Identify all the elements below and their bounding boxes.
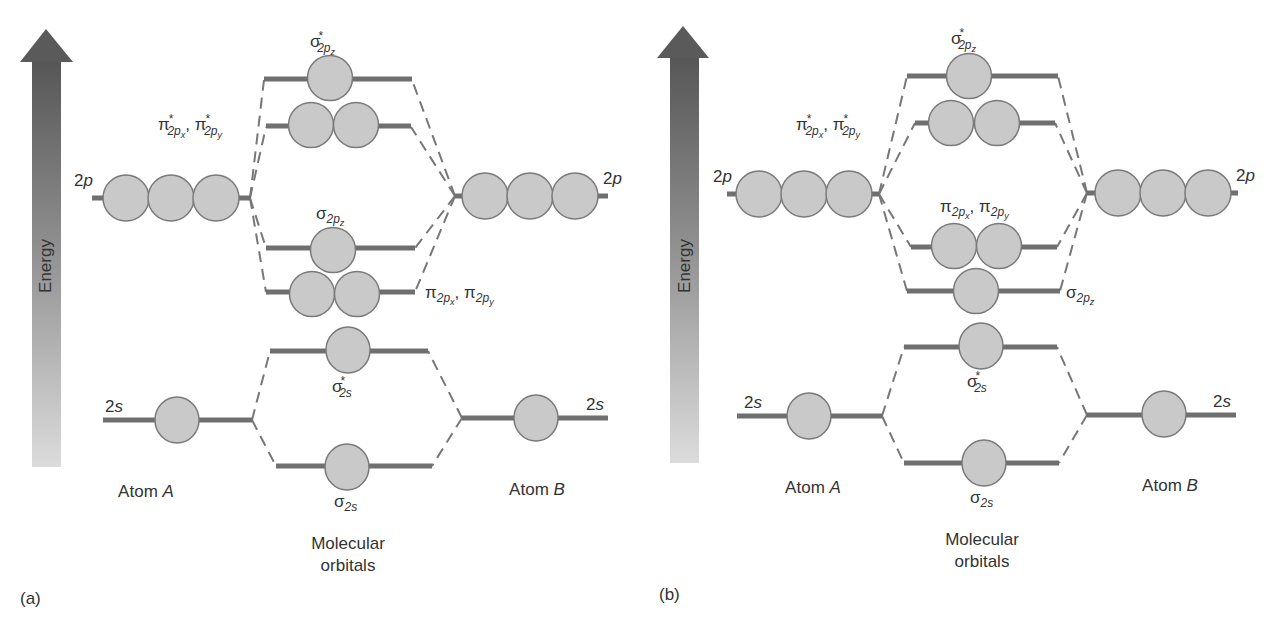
orbital-atom-a-2s	[787, 393, 831, 439]
label-sigma-star-2pz: σ*2pz	[310, 29, 336, 57]
label-pi-2p: π2px, π2py	[425, 283, 494, 307]
label-atom-b: Atom B	[509, 480, 565, 499]
orbital-pi-2py	[335, 272, 380, 317]
orbital-atom-b-2p	[462, 173, 508, 219]
label-atom-b: Atom B	[1142, 476, 1198, 495]
orbital-sigma-star-2pz	[308, 56, 353, 101]
panel-label-b: (b)	[659, 585, 680, 604]
orbital-pi-2px	[290, 272, 335, 317]
orbital-sigma-star-2pz	[947, 54, 992, 99]
panel-b: Energy	[657, 26, 1255, 604]
orbital-atom-a-2p	[781, 171, 827, 217]
label-sigma-2pz: σ2pz	[1066, 283, 1095, 307]
label-atom-b-2s: 2s	[1213, 392, 1231, 411]
orbital-atom-b-2p	[552, 173, 598, 219]
label-sigma-2pz: σ2pz	[316, 204, 345, 228]
panel-a: Energy	[20, 29, 622, 608]
orbital-atom-b-2p	[507, 173, 553, 219]
label-molecular-orbitals: Molecularorbitals	[311, 534, 385, 575]
energy-axis-label: Energy	[36, 239, 55, 293]
orbital-pi-star-2px	[289, 103, 334, 148]
label-sigma-star-2pz: σ*2pz	[951, 26, 977, 54]
energy-axis-label: Energy	[675, 239, 694, 293]
orbital-sigma-star-2s	[959, 323, 1003, 369]
orbital-atom-b-2p	[1140, 170, 1186, 216]
orbital-atom-b-2p	[1095, 170, 1141, 216]
label-sigma-star-2s: σ*2s	[332, 374, 352, 400]
orbital-sigma-2s	[325, 444, 369, 490]
orbital-pi-2py	[977, 224, 1022, 269]
orbital-atom-b-2p	[1185, 170, 1231, 216]
label-sigma-2s: σ2s	[970, 488, 993, 510]
label-atom-b-2s: 2s	[586, 395, 604, 414]
orbital-atom-a-2p	[826, 171, 872, 217]
orbital-pi-star-2py	[334, 103, 379, 148]
orbital-atom-b-2s	[1142, 391, 1186, 437]
orbital-atom-a-2p	[193, 175, 239, 221]
label-atom-a: Atom A	[785, 478, 841, 497]
label-pi-star-2p: π*2px, π*2py	[158, 112, 222, 140]
orbital-atom-b-2s	[514, 395, 558, 441]
orbital-pi-star-2py	[975, 101, 1020, 146]
label-atom-b-2p: 2p	[1236, 166, 1255, 185]
label-atom-a-2s: 2s	[105, 397, 123, 416]
label-atom-b-2p: 2p	[603, 169, 622, 188]
orbital-atom-a-2p	[148, 175, 194, 221]
label-pi-2p: π2px, π2py	[940, 197, 1009, 221]
label-atom-a-2p: 2p	[713, 167, 732, 186]
label-sigma-2s: σ2s	[334, 492, 357, 514]
orbital-atom-a-2p	[736, 171, 782, 217]
orbital-sigma-2pz	[311, 228, 356, 273]
label-atom-a-2s: 2s	[744, 393, 762, 412]
label-pi-star-2p: π*2px, π*2py	[796, 112, 860, 140]
orbital-sigma-star-2s	[326, 327, 370, 373]
orbital-pi-star-2px	[929, 101, 974, 146]
orbital-pi-2px	[932, 224, 977, 269]
label-atom-a: Atom A	[118, 482, 174, 501]
orbital-atom-a-2p	[103, 175, 149, 221]
orbital-sigma-2s	[962, 440, 1006, 486]
orbital-sigma-2pz	[954, 269, 999, 314]
label-sigma-star-2s: σ*2s	[967, 369, 987, 395]
orbital-atom-a-2s	[155, 397, 199, 443]
mo-diagram-figure: Energy	[0, 0, 1279, 628]
panel-label-a: (a)	[20, 589, 41, 608]
label-atom-a-2p: 2p	[74, 171, 93, 190]
label-molecular-orbitals: Molecularorbitals	[945, 530, 1019, 571]
